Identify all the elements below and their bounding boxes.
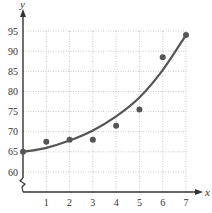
y-tick-label: 90	[8, 46, 18, 57]
data-point	[43, 139, 49, 145]
y-tick-label: 60	[8, 167, 18, 178]
x-arrow-icon	[195, 189, 203, 195]
data-point	[183, 32, 189, 38]
x-tick-label: 3	[90, 197, 95, 208]
y-tick-label: 75	[8, 106, 18, 117]
y-tick-label: 95	[8, 26, 18, 37]
data-point	[67, 137, 73, 143]
x-tick-label: 4	[114, 197, 119, 208]
axes	[20, 9, 203, 195]
x-tick-label: 1	[44, 197, 49, 208]
fit-curve	[23, 35, 186, 152]
fit-curve-line	[23, 35, 186, 152]
y-tick-label: 70	[8, 126, 18, 137]
scatter-chart: 60657075808590951234567xy	[0, 0, 212, 213]
data-point	[113, 123, 119, 129]
x-tick-label: 5	[137, 197, 142, 208]
x-axis-label: x	[204, 186, 210, 198]
y-tick-label: 80	[8, 86, 18, 97]
x-tick-label: 7	[184, 197, 189, 208]
data-points	[20, 32, 189, 155]
axis-break-icon	[20, 178, 25, 192]
y-axis-label: y	[19, 0, 25, 10]
data-point	[160, 54, 166, 60]
data-point	[136, 107, 142, 113]
y-tick-label: 65	[8, 146, 18, 157]
x-tick-label: 2	[67, 197, 72, 208]
data-point	[20, 149, 26, 155]
x-tick-label: 6	[160, 197, 165, 208]
y-tick-label: 85	[8, 66, 18, 77]
data-point	[90, 137, 96, 143]
y-arrow-icon	[20, 9, 26, 17]
